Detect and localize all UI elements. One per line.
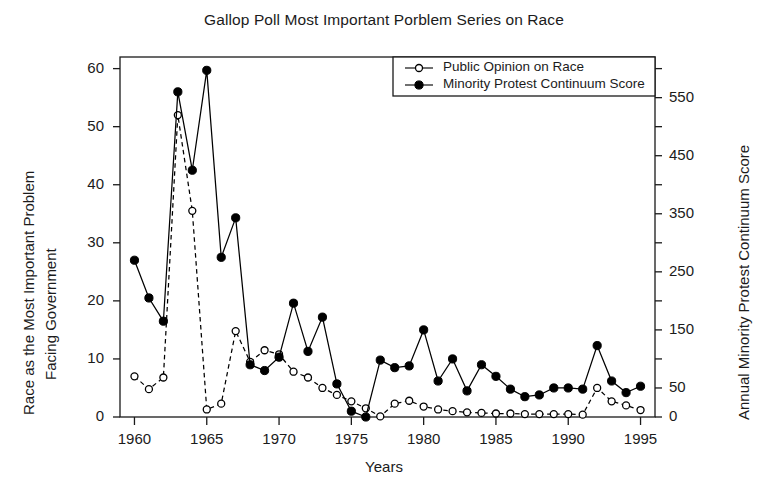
data-point-filled: [622, 389, 630, 397]
data-point-open: [189, 207, 196, 214]
data-point-filled: [333, 380, 341, 388]
data-point-open: [406, 397, 413, 404]
data-point-open: [232, 328, 239, 335]
data-point-filled: [246, 361, 254, 369]
data-point-open: [550, 411, 557, 418]
data-point-filled: [608, 377, 616, 385]
x-axis-tick-label: 1980: [389, 430, 459, 447]
series-1: [130, 66, 644, 421]
data-point-open: [623, 402, 630, 409]
data-point-filled: [535, 391, 543, 399]
data-point-open: [420, 403, 427, 410]
data-point-filled: [405, 362, 413, 370]
data-point-filled: [260, 366, 268, 374]
data-point-open: [492, 410, 499, 417]
data-point-open: [319, 384, 326, 391]
data-point-open: [261, 347, 268, 354]
legend-label: Minority Protest Continuum Score: [443, 76, 645, 91]
x-axis-tick-label: 1975: [316, 430, 386, 447]
data-point-filled: [362, 413, 370, 421]
data-point-filled: [550, 384, 558, 392]
plot-area: [0, 0, 768, 486]
y-axis-right-tick-label: 250: [669, 262, 719, 279]
data-point-filled: [159, 317, 167, 325]
data-point-open: [608, 398, 615, 405]
data-point-filled: [304, 347, 312, 355]
data-point-open: [304, 374, 311, 381]
data-point-filled: [275, 353, 283, 361]
y-axis-left-label-line1: Race as the Most Important Problem: [20, 171, 37, 415]
data-point-open: [435, 406, 442, 413]
data-point-open: [565, 411, 572, 418]
data-point-filled: [564, 384, 572, 392]
x-axis-tick-label: 1990: [533, 430, 603, 447]
y-axis-right-tick-label: 350: [669, 204, 719, 221]
y-axis-right-tick-label: 550: [669, 88, 719, 105]
data-point-filled: [463, 387, 471, 395]
y-axis-left-tick-label: 40: [54, 175, 104, 192]
x-axis-tick-label: 1970: [244, 430, 314, 447]
data-point-filled: [188, 166, 196, 174]
data-point-open: [333, 391, 340, 398]
data-point-filled: [217, 253, 225, 261]
x-axis-tick-label: 1995: [606, 430, 676, 447]
data-point-filled: [420, 326, 428, 334]
data-point-open: [377, 413, 384, 420]
data-point-open: [391, 400, 398, 407]
y-axis-left-tick-label: 0: [54, 407, 104, 424]
data-point-open: [507, 410, 514, 417]
legend-label: Public Opinion on Race: [443, 59, 584, 74]
y-axis-left-tick-label: 10: [54, 349, 104, 366]
data-point-filled: [318, 313, 326, 321]
data-point-filled: [521, 393, 529, 401]
y-axis-right-tick-label: 450: [669, 146, 719, 163]
data-point-open: [174, 112, 181, 119]
data-point-open: [145, 386, 152, 393]
x-axis-label: Years: [0, 458, 768, 475]
data-point-filled: [477, 361, 485, 369]
data-point-open: [290, 368, 297, 375]
series-line: [134, 70, 640, 417]
y-axis-left-tick-label: 50: [54, 117, 104, 134]
data-point-filled: [448, 355, 456, 363]
data-point-open: [160, 374, 167, 381]
x-axis-tick-label: 1985: [461, 430, 531, 447]
data-point-filled: [174, 88, 182, 96]
data-point-filled: [232, 214, 240, 222]
data-point-open: [203, 406, 210, 413]
data-point-filled: [579, 385, 587, 393]
data-point-open: [218, 400, 225, 407]
data-point-filled: [130, 256, 138, 264]
data-point-open: [348, 398, 355, 405]
data-point-filled: [376, 356, 384, 364]
y-axis-right-tick-label: 50: [669, 378, 719, 395]
chart-figure: Gallop Poll Most Important Porblem Serie…: [0, 0, 768, 486]
series-line: [134, 115, 640, 416]
data-point-open: [449, 408, 456, 415]
y-axis-right-tick-label: 0: [669, 407, 719, 424]
data-point-open: [637, 407, 644, 414]
data-point-filled: [391, 364, 399, 372]
chart-title: Gallop Poll Most Important Porblem Serie…: [0, 11, 768, 29]
data-point-filled: [434, 377, 442, 385]
data-point-open: [579, 411, 586, 418]
legend-marker-filled: [415, 81, 423, 89]
data-point-open: [594, 384, 601, 391]
y-axis-left-tick-label: 30: [54, 233, 104, 250]
x-axis-tick-label: 1965: [172, 430, 242, 447]
y-axis-right-tick-label: 150: [669, 320, 719, 337]
data-point-filled: [492, 372, 500, 380]
data-point-filled: [145, 294, 153, 302]
x-axis-tick-label: 1960: [99, 430, 169, 447]
data-point-filled: [506, 385, 514, 393]
data-point-open: [131, 373, 138, 380]
data-point-open: [478, 409, 485, 416]
series-0: [131, 112, 644, 420]
data-point-filled: [347, 407, 355, 415]
data-point-filled: [289, 299, 297, 307]
data-point-filled: [203, 66, 211, 74]
y-axis-left-tick-label: 60: [54, 59, 104, 76]
legend-marker-open: [416, 65, 423, 72]
data-point-open: [464, 409, 471, 416]
data-point-filled: [636, 382, 644, 390]
